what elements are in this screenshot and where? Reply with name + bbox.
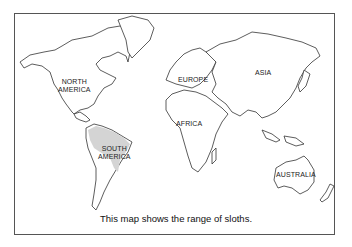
new-zealand-outline <box>320 184 334 202</box>
central-america-outline <box>74 112 90 122</box>
africa-outline <box>166 90 228 172</box>
label-south-america-line2: AMERICA <box>98 153 131 161</box>
label-europe: EUROPE <box>178 76 208 84</box>
label-north-america-line1: NORTH <box>58 78 91 86</box>
label-south-america: SOUTH AMERICA <box>98 145 131 161</box>
map-caption: This map shows the range of sloths. <box>0 213 352 224</box>
label-north-america-line2: AMERICA <box>58 86 91 94</box>
label-africa: AFRICA <box>176 120 202 128</box>
label-asia: ASIA <box>255 69 271 77</box>
madagascar-outline <box>212 148 216 164</box>
label-north-america: NORTH AMERICA <box>58 78 91 94</box>
label-south-america-line1: SOUTH <box>98 145 131 153</box>
label-australia: AUSTRALIA <box>276 171 316 179</box>
southeast-asia-islands-outline <box>262 130 304 146</box>
